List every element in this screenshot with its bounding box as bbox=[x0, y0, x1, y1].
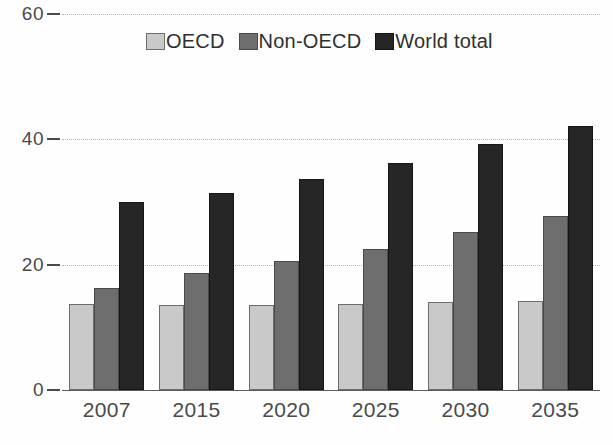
bar bbox=[184, 273, 209, 390]
x-tick-label: 2015 bbox=[173, 398, 221, 422]
y-tick-label: 20 bbox=[10, 254, 44, 276]
bar bbox=[428, 302, 453, 390]
bar-chart: OECD Non-OECD World total 0204060 200720… bbox=[0, 0, 613, 445]
y-tick-mark bbox=[47, 389, 60, 391]
bar bbox=[249, 305, 274, 390]
bars-layer bbox=[62, 14, 600, 390]
x-tick-label: 2030 bbox=[442, 398, 490, 422]
bar bbox=[568, 126, 593, 390]
bar bbox=[518, 301, 543, 390]
bar bbox=[69, 304, 94, 390]
bar bbox=[299, 179, 324, 390]
bar bbox=[453, 232, 478, 390]
bar bbox=[209, 193, 234, 390]
bar bbox=[363, 249, 388, 390]
axis-baseline bbox=[62, 390, 600, 391]
bar bbox=[274, 261, 299, 390]
bar bbox=[119, 202, 144, 390]
bar bbox=[388, 163, 413, 390]
y-tick-label: 0 bbox=[10, 379, 44, 401]
bar bbox=[338, 304, 363, 390]
y-tick-label: 60 bbox=[10, 3, 44, 25]
bar bbox=[543, 216, 568, 390]
bar bbox=[159, 305, 184, 390]
x-tick-label: 2025 bbox=[352, 398, 400, 422]
x-tick-label: 2035 bbox=[531, 398, 579, 422]
y-tick-mark bbox=[47, 264, 60, 266]
y-tick-mark bbox=[47, 138, 60, 140]
x-tick-label: 2020 bbox=[262, 398, 310, 422]
bar bbox=[478, 144, 503, 390]
y-tick-mark bbox=[47, 13, 60, 15]
bar bbox=[94, 288, 119, 390]
x-tick-label: 2007 bbox=[83, 398, 131, 422]
plot-area bbox=[62, 14, 600, 390]
y-tick-label: 40 bbox=[10, 128, 44, 150]
